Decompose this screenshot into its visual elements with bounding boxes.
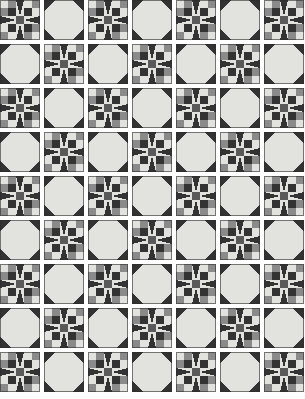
quilt-block-snowball [176, 132, 216, 172]
quilt-block-snowball [0, 308, 40, 348]
quilt-block-star [176, 264, 216, 304]
quilt-block-star [176, 352, 216, 392]
quilt-block-snowball [44, 88, 84, 128]
quilt-block-snowball [0, 44, 40, 84]
quilt-block-snowball [264, 220, 304, 260]
quilt-block-star [88, 0, 128, 40]
quilt-block-star [44, 44, 84, 84]
quilt-block-star [220, 308, 260, 348]
quilt-block-star [132, 44, 172, 84]
quilt-block-star [264, 88, 304, 128]
quilt-block-snowball [88, 308, 128, 348]
quilt-block-snowball [88, 44, 128, 84]
quilt-block-star [0, 352, 40, 392]
quilt-block-snowball [176, 44, 216, 84]
quilt-block-star [44, 132, 84, 172]
quilt-block-snowball [132, 352, 172, 392]
quilt-block-star [88, 88, 128, 128]
quilt-block-snowball [176, 308, 216, 348]
quilt-block-star [0, 264, 40, 304]
quilt-block-snowball [44, 0, 84, 40]
quilt-block-snowball [264, 308, 304, 348]
quilt-block-star [176, 176, 216, 216]
quilt-block-star [264, 0, 304, 40]
quilt-block-star [264, 352, 304, 392]
quilt-block-star [0, 0, 40, 40]
quilt-block-snowball [132, 0, 172, 40]
quilt-block-snowball [220, 0, 260, 40]
quilt-block-star [0, 88, 40, 128]
quilt-block-star [220, 44, 260, 84]
quilt-block-snowball [132, 88, 172, 128]
quilt-block-snowball [176, 220, 216, 260]
quilt-block-snowball [220, 88, 260, 128]
quilt-block-snowball [44, 352, 84, 392]
quilt-block-snowball [132, 176, 172, 216]
quilt-block-snowball [44, 264, 84, 304]
quilt-block-snowball [264, 44, 304, 84]
quilt-block-grid [0, 0, 304, 392]
quilt-block-star [44, 220, 84, 260]
quilt-block-star [44, 308, 84, 348]
quilt-block-star [264, 264, 304, 304]
quilt-block-star [264, 176, 304, 216]
quilt-block-star [132, 132, 172, 172]
quilt-block-star [132, 308, 172, 348]
quilt-block-star [220, 132, 260, 172]
quilt-block-star [176, 0, 216, 40]
quilt-block-snowball [220, 352, 260, 392]
quilt-canvas [0, 0, 305, 399]
quilt-block-snowball [0, 220, 40, 260]
quilt-block-snowball [0, 132, 40, 172]
quilt-block-snowball [132, 264, 172, 304]
quilt-block-star [220, 220, 260, 260]
quilt-block-star [0, 176, 40, 216]
quilt-block-star [176, 88, 216, 128]
quilt-block-snowball [264, 132, 304, 172]
quilt-block-snowball [88, 132, 128, 172]
quilt-block-snowball [220, 176, 260, 216]
quilt-block-star [88, 352, 128, 392]
quilt-block-star [132, 220, 172, 260]
quilt-block-star [88, 176, 128, 216]
quilt-block-snowball [220, 264, 260, 304]
quilt-block-snowball [88, 220, 128, 260]
quilt-block-snowball [44, 176, 84, 216]
quilt-block-star [88, 264, 128, 304]
